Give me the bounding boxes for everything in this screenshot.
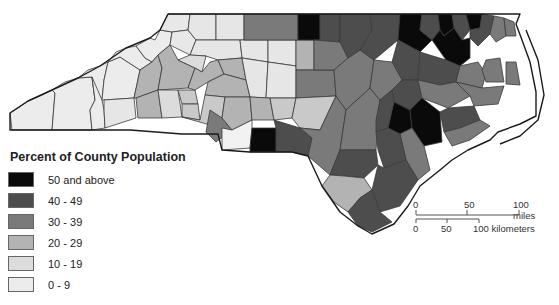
legend-item: 50 and above: [8, 169, 186, 190]
legend-label: 30 - 39: [48, 216, 82, 228]
legend-swatch-30-39: [8, 214, 34, 229]
legend-label: 40 - 49: [48, 195, 82, 207]
scale-lines: [413, 210, 533, 224]
county: [52, 77, 95, 130]
county: [158, 90, 182, 118]
scale-miles-50: 50: [464, 199, 475, 210]
scale-bar: 0 50 100 miles 0 50 100 kilometers: [413, 199, 553, 239]
legend-swatch-0-9: [8, 277, 34, 292]
county: [298, 14, 320, 40]
county: [296, 70, 336, 98]
county: [266, 62, 296, 98]
county: [216, 14, 244, 40]
legend-label: 10 - 19: [48, 258, 82, 270]
legend-swatch-40-49: [8, 193, 34, 208]
county: [506, 62, 520, 85]
county: [504, 18, 516, 36]
legend-swatch-50-plus: [8, 172, 34, 187]
county: [482, 58, 504, 82]
county: [10, 90, 55, 130]
legend-label: 0 - 9: [48, 279, 70, 291]
scale-km-50: 50: [441, 223, 452, 234]
county: [160, 14, 190, 32]
county: [250, 128, 276, 152]
legend-label: 20 - 29: [48, 237, 82, 249]
legend-swatch-20-29: [8, 235, 34, 250]
legend-item: 40 - 49: [8, 190, 186, 211]
legend-item: 10 - 19: [8, 253, 186, 274]
county: [104, 98, 136, 128]
scale-km-100: 100 kilometers: [473, 223, 535, 234]
scale-km-0: 0: [413, 223, 418, 234]
legend-item: 20 - 29: [8, 232, 186, 253]
scale-miles-0: 0: [413, 199, 418, 210]
county: [372, 160, 418, 212]
legend-item: 30 - 39: [8, 211, 186, 232]
county: [268, 40, 296, 66]
county: [244, 14, 298, 40]
legend-swatch-10-19: [8, 256, 34, 271]
outer-banks: [500, 30, 544, 144]
county: [178, 90, 198, 104]
legend-label: 50 and above: [48, 174, 115, 186]
legend-title: Percent of County Population: [10, 150, 186, 164]
map-legend: Percent of County Population 50 and abov…: [8, 150, 186, 295]
legend-item: 0 - 9: [8, 274, 186, 295]
county: [296, 40, 314, 70]
